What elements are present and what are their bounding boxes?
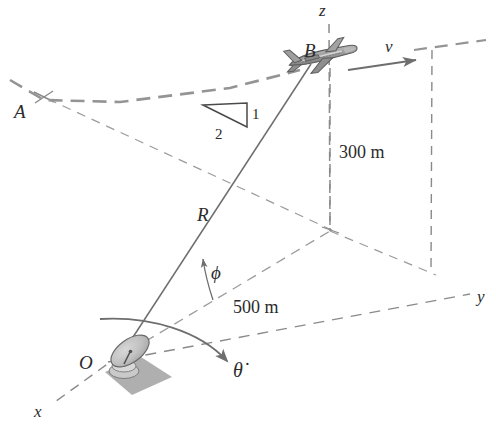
radar-feed-tip xyxy=(129,350,133,354)
kinematics-diagram-canvas: z y x B A O R v ϕ θ̇ 300 m 500 m 1 2 xyxy=(0,0,496,428)
axis-label-x: x xyxy=(33,402,42,421)
axis-line-y xyxy=(108,294,470,362)
projection-line-from-a xyxy=(48,99,336,232)
slope-triangle xyxy=(203,103,247,127)
velocity-arrow-v xyxy=(348,60,416,70)
point-label-A: A xyxy=(12,101,26,122)
dimension-label-height: 300 m xyxy=(339,142,385,162)
angle-label-phi: ϕ xyxy=(211,262,221,283)
radar-station-group xyxy=(105,329,172,395)
vector-label-v: v xyxy=(385,37,393,56)
ground-plane-edge-right xyxy=(330,231,436,275)
point-label-B: B xyxy=(304,40,316,61)
flight-path-dashed-right xyxy=(414,40,486,50)
axis-label-y: y xyxy=(475,287,485,306)
axis-label-z: z xyxy=(318,1,326,20)
figure-root: z y x B A O R v ϕ θ̇ 300 m 500 m 1 2 xyxy=(0,0,496,428)
flight-path-dashed xyxy=(10,70,300,102)
y-axis-intersection-marker xyxy=(322,227,339,233)
right-vertical-dashed-line xyxy=(431,50,432,274)
range-line-R xyxy=(122,64,311,354)
slope-run-label: 2 xyxy=(215,126,223,142)
dimension-label-ground-range: 500 m xyxy=(233,297,279,317)
aircraft-icon xyxy=(283,36,360,78)
slope-rise-label: 1 xyxy=(252,106,260,122)
point-label-O: O xyxy=(79,352,93,373)
angle-label-theta-dot: θ̇ xyxy=(233,359,249,381)
construction-lines-group xyxy=(10,24,486,404)
labels-group: z y x B A O R v ϕ θ̇ 300 m 500 m 1 2 xyxy=(12,1,485,421)
vector-label-R: R xyxy=(196,204,209,225)
